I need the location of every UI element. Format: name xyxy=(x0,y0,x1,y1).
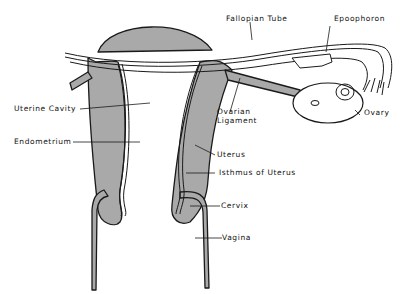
label-endometrium: Endometrium xyxy=(14,137,72,146)
label-fallopian-tube: Fallopian Tube xyxy=(226,14,288,23)
uterine-fundus xyxy=(98,27,212,52)
label-vagina: Vagina xyxy=(222,233,251,242)
label-ovarian-ligament-1: Ovarian xyxy=(217,107,251,116)
ovarian-ligament-shape xyxy=(225,70,302,98)
label-epoophoron: Epoophoron xyxy=(334,14,385,23)
label-ovarian-ligament-2: Ligament xyxy=(217,116,257,125)
label-cervix: Cervix xyxy=(221,201,249,210)
label-isthmus: Isthmus of Uterus xyxy=(219,168,296,177)
ovary-shape xyxy=(293,83,363,123)
label-ovary: Ovary xyxy=(364,108,389,117)
epoophoron-shape xyxy=(292,54,332,68)
uterus-diagram xyxy=(0,0,409,294)
label-uterus: Uterus xyxy=(217,150,245,159)
label-uterine-cavity: Uterine Cavity xyxy=(14,104,76,113)
